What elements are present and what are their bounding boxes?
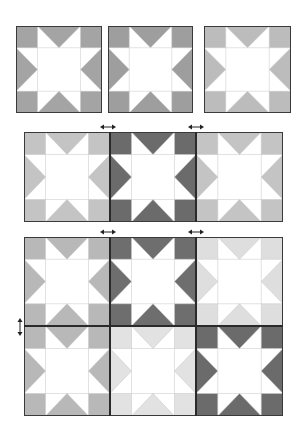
step2-star-block-1: [24, 132, 110, 222]
step2-press-arrow-icon-1: [100, 124, 116, 130]
step3-horizontal-seam: [24, 325, 283, 327]
step3-press-arrow-icon-1: [100, 229, 116, 235]
step3-star-block-5: [110, 326, 196, 416]
step3-star-block-3: [196, 237, 283, 326]
step3-star-block-4: [24, 326, 110, 416]
step1-star-block-1: [16, 26, 102, 113]
step3-star-block-6: [196, 326, 283, 416]
step2-star-block-3: [196, 132, 283, 222]
step2-press-arrow-icon-2: [188, 124, 204, 130]
step2-vertical-seam: [195, 132, 197, 222]
step3-star-block-1: [24, 237, 110, 326]
step3-star-block-2: [110, 237, 196, 326]
step3-press-arrow-icon-3: [17, 318, 23, 336]
step2-vertical-seam: [109, 132, 111, 222]
step2-star-block-2: [110, 132, 196, 222]
step1-star-block-2: [108, 26, 193, 113]
step1-star-block-3: [204, 26, 291, 113]
step3-press-arrow-icon-2: [188, 229, 204, 235]
